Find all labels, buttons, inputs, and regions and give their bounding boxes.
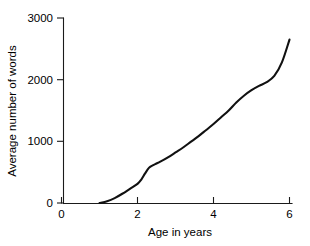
x-tick-label-0: 0 [58,208,64,220]
y-tick-label-2000: 2000 [27,74,53,86]
y-tick-label-3000: 3000 [27,12,53,24]
y-tick-label-1000: 1000 [27,135,53,147]
y-tick-marks [57,18,64,203]
data-curve-average-words [100,40,290,203]
x-axis-title: Age in years [148,226,212,238]
x-tick-label-4: 4 [210,208,217,220]
x-tick-label-6: 6 [286,208,292,220]
line-chart: 3000 2000 1000 0 0 2 4 6 Age in years Av… [0,0,310,246]
x-tick-marks [62,197,290,204]
y-axis-title: Average number of words [6,45,18,177]
x-tick-label-2: 2 [134,208,140,220]
y-tick-label-0: 0 [47,197,53,209]
chart-container: 3000 2000 1000 0 0 2 4 6 Age in years Av… [0,0,310,246]
